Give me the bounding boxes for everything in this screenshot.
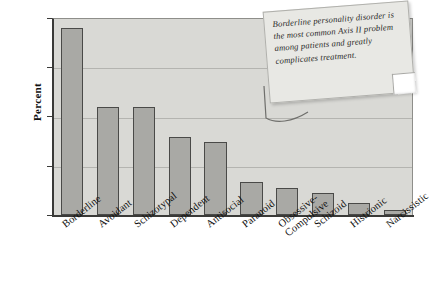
callout-note: Borderline personality disorder is the m… — [263, 0, 416, 103]
callout-note-folded-corner — [392, 72, 417, 95]
bar-chart-figure: 40 30 20 10 0 Percent BorderlineAvoidant… — [0, 0, 448, 285]
x-label-narcissistic: Narcissistic — [384, 190, 430, 230]
callout-note-text: Borderline personality disorder is the m… — [272, 8, 403, 67]
x-label-histrionic: Histrionic — [348, 195, 389, 230]
x-label-borderline: Borderline — [60, 193, 103, 230]
